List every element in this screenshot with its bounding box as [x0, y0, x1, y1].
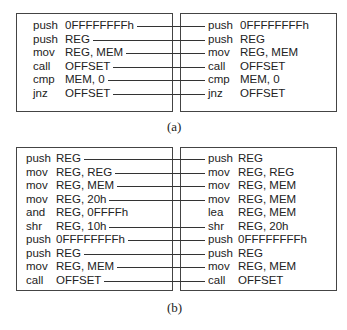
- connector-line: [176, 200, 205, 201]
- opcode: mov: [26, 166, 48, 179]
- figure-caption-b: (b): [167, 300, 182, 316]
- opcode: push: [26, 233, 51, 246]
- opcode: push: [208, 247, 233, 260]
- connector-line: [93, 40, 177, 41]
- operand: OFFSET: [238, 274, 283, 287]
- connector-line: [113, 67, 177, 68]
- operand: OFFSET: [240, 87, 285, 100]
- opcode: mov: [208, 193, 230, 206]
- connector-line: [137, 26, 177, 27]
- opcode: shr: [208, 220, 224, 233]
- connector-line: [176, 94, 205, 95]
- operand: 0FFFFFFFFh: [56, 233, 125, 246]
- operand: MEM, 0: [240, 73, 280, 86]
- opcode: jnz: [33, 87, 48, 100]
- operand: OFFSET: [65, 60, 110, 73]
- connector-line: [176, 254, 205, 255]
- operand: REG, MEM: [238, 206, 296, 219]
- connector-line: [117, 186, 177, 187]
- opcode: mov: [26, 193, 48, 206]
- opcode: call: [26, 274, 43, 287]
- connector-line: [84, 254, 177, 255]
- operand: MEM, 0: [65, 73, 105, 86]
- opcode: cmp: [33, 73, 55, 86]
- opcode: push: [208, 152, 233, 165]
- connector-line: [115, 173, 177, 174]
- operand: REG, MEM: [65, 46, 123, 59]
- opcode: call: [208, 60, 225, 73]
- opcode: mov: [26, 260, 48, 273]
- connector-line: [176, 186, 205, 187]
- operand: REG, MEM: [56, 179, 114, 192]
- operand: REG, 20h: [56, 193, 107, 206]
- operand: REG: [238, 247, 263, 260]
- connector-line: [109, 227, 177, 228]
- opcode: call: [33, 60, 50, 73]
- operand: REG, MEM: [238, 193, 296, 206]
- operand: OFFSET: [65, 87, 110, 100]
- opcode: push: [26, 247, 51, 260]
- operand: REG, REG: [238, 166, 294, 179]
- connector-line: [176, 267, 205, 268]
- opcode: shr: [26, 220, 42, 233]
- opcode: push: [33, 19, 58, 32]
- opcode: cmp: [208, 73, 230, 86]
- operand: REG: [240, 33, 265, 46]
- operand: 0FFFFFFFFh: [65, 19, 134, 32]
- operand: REG: [56, 152, 81, 165]
- connector-line: [104, 281, 177, 282]
- connector-line: [109, 200, 177, 201]
- operand: REG, 10h: [56, 220, 107, 233]
- figure-caption-a: (a): [167, 119, 181, 135]
- opcode: call: [208, 274, 225, 287]
- operand: 0FFFFFFFFh: [238, 233, 307, 246]
- operand: REG, 0FFFFh: [56, 206, 128, 219]
- opcode: mov: [208, 166, 230, 179]
- operand: REG: [238, 152, 263, 165]
- opcode: push: [208, 233, 233, 246]
- connector-line: [84, 159, 177, 160]
- connector-line: [176, 40, 205, 41]
- opcode: mov: [208, 179, 230, 192]
- connector-line: [176, 173, 205, 174]
- connector-line: [176, 159, 205, 160]
- connector-line: [176, 240, 205, 241]
- operand: REG: [65, 33, 90, 46]
- operand: 0FFFFFFFFh: [240, 19, 309, 32]
- operand: OFFSET: [56, 274, 101, 287]
- opcode: lea: [208, 206, 223, 219]
- opcode: push: [26, 152, 51, 165]
- operand: REG, MEM: [238, 179, 296, 192]
- connector-line: [126, 53, 177, 54]
- operand: REG, 20h: [238, 220, 289, 233]
- connector-line: [117, 267, 177, 268]
- connector-line: [176, 67, 205, 68]
- connector-line: [176, 53, 205, 54]
- opcode: push: [33, 33, 58, 46]
- opcode: push: [208, 33, 233, 46]
- operand: REG, MEM: [240, 46, 298, 59]
- connector-line: [176, 26, 205, 27]
- operand: OFFSET: [240, 60, 285, 73]
- operand: REG: [56, 247, 81, 260]
- opcode: mov: [26, 179, 48, 192]
- opcode: and: [26, 206, 45, 219]
- connector-line: [113, 94, 177, 95]
- connector-line: [108, 80, 177, 81]
- connector-line: [128, 240, 177, 241]
- connector-line: [176, 281, 205, 282]
- operand: REG, MEM: [56, 260, 114, 273]
- opcode: mov: [208, 260, 230, 273]
- opcode: mov: [208, 46, 230, 59]
- opcode: mov: [33, 46, 55, 59]
- opcode: jnz: [208, 87, 223, 100]
- operand: REG, MEM: [238, 260, 296, 273]
- operand: REG, REG: [56, 166, 112, 179]
- connector-line: [176, 227, 205, 228]
- connector-line: [176, 80, 205, 81]
- opcode: push: [208, 19, 233, 32]
